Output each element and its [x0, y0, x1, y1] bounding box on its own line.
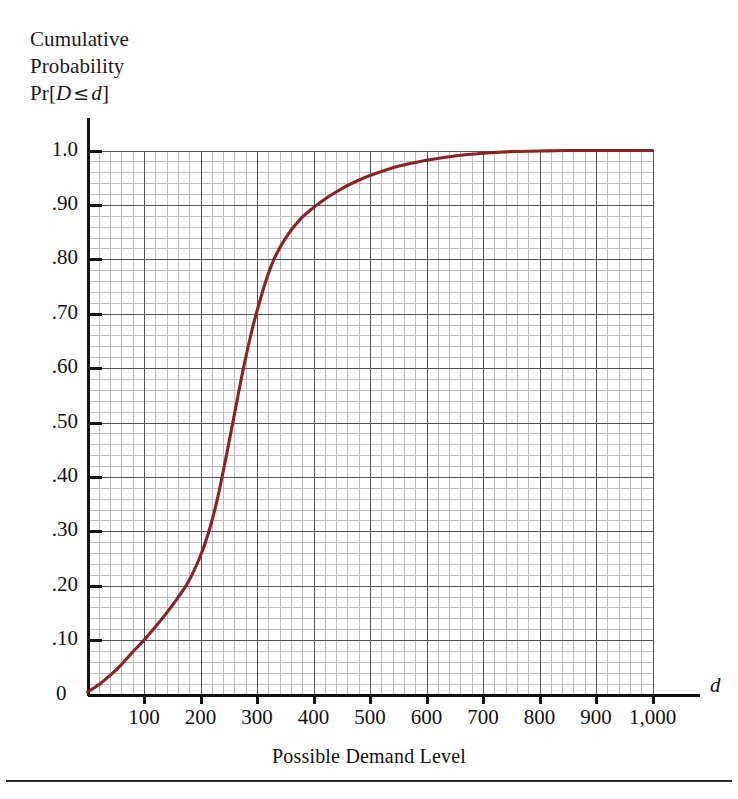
y-axis-tick-label: .70 — [12, 300, 78, 325]
y-axis-tick-label: .10 — [12, 626, 78, 651]
y-axis-tick-label: .90 — [12, 191, 78, 216]
y-axis-tick-label: .40 — [12, 463, 78, 488]
origin-zero-label: 0 — [56, 681, 67, 706]
y-axis-tick-label: 1.0 — [12, 137, 78, 162]
y-axis-tick-label: .60 — [12, 354, 78, 379]
x-axis-tick-label: 1,000 — [613, 705, 693, 730]
y-axis-tick-label: .80 — [12, 245, 78, 270]
y-axis-tick-label: .50 — [12, 409, 78, 434]
y-axis-tick-label: .20 — [12, 572, 78, 597]
axis-lines — [89, 118, 701, 696]
grid-major-lines — [88, 151, 654, 696]
figure-container: Cumulative Probability Pr[D≤d] 1.0.90.80… — [0, 0, 738, 799]
bottom-horizontal-rule — [6, 780, 732, 782]
x-axis-caption: Possible Demand Level — [0, 745, 738, 768]
x-axis-variable-label: d — [710, 673, 721, 698]
plot-svg — [0, 0, 738, 799]
y-axis-tick-label: .30 — [12, 517, 78, 542]
